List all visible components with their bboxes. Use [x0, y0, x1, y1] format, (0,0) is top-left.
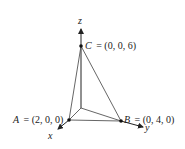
- point-B: [119, 119, 123, 123]
- label-A-coords: = (2, 0, 0): [24, 114, 64, 126]
- x-axis-label: x: [47, 130, 53, 141]
- edge-A-B: [69, 120, 121, 121]
- label-B: B = (0, 4, 0): [124, 114, 174, 126]
- z-axis-label: z: [77, 15, 82, 26]
- tetrahedron-diagram: z x y C = (0, 0, 6) A = (2, 0, 0) B = (0…: [0, 0, 185, 149]
- label-C-name: C: [85, 40, 92, 51]
- label-A: A = (2, 0, 0): [12, 114, 63, 126]
- point-A: [67, 118, 71, 122]
- label-A-name: A: [12, 114, 20, 125]
- edge-A-C: [69, 46, 81, 120]
- label-B-coords: = (0, 4, 0): [135, 114, 175, 126]
- label-C: C = (0, 0, 6): [85, 40, 136, 52]
- point-C: [79, 44, 83, 48]
- label-C-coords: = (0, 0, 6): [96, 40, 136, 52]
- label-B-name: B: [124, 114, 130, 125]
